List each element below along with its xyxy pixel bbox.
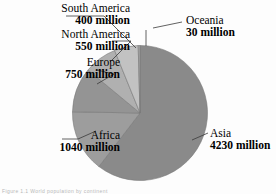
slice-label-north-america-name: North America — [10, 28, 130, 40]
slice-label-south-america-name: South America — [18, 2, 130, 14]
slice-label-oceania: Oceania 30 million — [186, 14, 272, 39]
slice-label-north-america: North America 550 million — [10, 28, 130, 53]
slice-label-oceania-name: Oceania — [186, 14, 272, 26]
slice-label-europe-name: Europe — [8, 56, 120, 68]
slice-label-asia: Asia 4230 million — [210, 127, 274, 152]
pie-chart-figure: South America 400 million North America … — [0, 0, 276, 194]
slice-label-south-america-value: 400 million — [18, 14, 130, 26]
slice-label-europe: Europe 750 million — [8, 56, 120, 81]
slice-label-south-america: South America 400 million — [18, 2, 130, 27]
slice-label-africa-name: Africa — [2, 129, 120, 141]
slice-label-oceania-value: 30 million — [186, 26, 272, 38]
slice-label-africa: Africa 1040 million — [2, 129, 120, 154]
slice-label-asia-value: 4230 million — [210, 139, 274, 151]
slice-label-north-america-value: 550 million — [10, 40, 130, 52]
slice-label-africa-value: 1040 million — [2, 141, 120, 153]
slice-label-europe-value: 750 million — [8, 68, 120, 80]
leader-line-oceania — [153, 22, 182, 28]
figure-caption: Figure 1.1 World population by continent — [2, 188, 108, 194]
slice-label-asia-name: Asia — [210, 127, 274, 139]
